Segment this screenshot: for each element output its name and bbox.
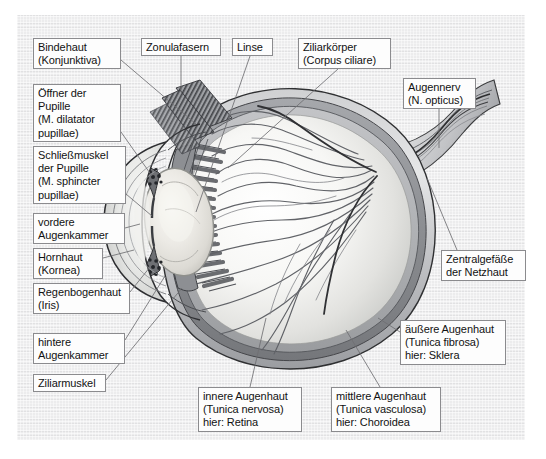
label-oeffner-pupille: Öffner derPupille(M. dilatatorpupillae) (33, 84, 121, 142)
label-line: Linse (237, 41, 268, 54)
label-line: (Tunica vasculosa) (336, 403, 436, 416)
label-line: Zonulafasern (146, 41, 216, 54)
label-hornhaut: Hornhaut(Kornea) (33, 248, 103, 279)
label-line: mittlere Augenhaut (336, 390, 436, 403)
label-line: Augenkammer (38, 229, 120, 242)
label-line: innere Augenhaut (203, 390, 297, 403)
label-line: pupillae) (38, 189, 121, 202)
label-innere-augenhaut: innere Augenhaut(Tunica nervosa)hier: Re… (198, 387, 302, 432)
label-line: hier: Retina (203, 416, 297, 429)
label-zentralgefaesse: Zentralgefäßeder Netzhaut (441, 250, 526, 281)
label-line: Augenkammer (38, 349, 120, 362)
label-linse: Linse (232, 38, 273, 56)
label-line: Ziliarkörper (303, 41, 386, 54)
label-line: äußere Augenhaut (405, 323, 501, 336)
label-schliessmuskel-pupille: Schließmuskelder Pupille(M. sphincterpup… (33, 146, 126, 204)
label-vordere-augenkammer: vordereAugenkammer (33, 213, 125, 244)
label-zonulafasern: Zonulafasern (141, 38, 221, 56)
label-line: der Pupille (38, 162, 121, 175)
label-line: der Netzhaut (446, 266, 521, 279)
label-mittlere-augenhaut: mittlere Augenhaut(Tunica vasculosa)hier… (331, 387, 441, 432)
label-ziliarmuskel: Ziliarmuskel (33, 374, 106, 392)
label-line: Bindehaut (38, 41, 116, 54)
label-line: (Kornea) (38, 264, 98, 277)
label-line: hintere (38, 336, 120, 349)
label-line: vordere (38, 216, 120, 229)
label-line: (N. opticus) (408, 94, 471, 107)
label-line: Pupille (38, 100, 116, 113)
label-regenbogenhaut: Regenbogenhaut(Iris) (33, 283, 130, 314)
label-line: hier: Choroidea (336, 416, 436, 429)
label-line: Zentralgefäße (446, 253, 521, 266)
label-line: hier: Sklera (405, 349, 501, 362)
label-line: (Corpus ciliare) (303, 54, 386, 67)
label-line: (Tunica fibrosa) (405, 336, 501, 349)
label-line: (M. dilatator (38, 113, 116, 126)
label-line: Regenbogenhaut (38, 286, 125, 299)
label-aeussere-augenhaut: äußere Augenhaut(Tunica fibrosa)hier: Sk… (400, 320, 506, 365)
label-line: Schließmuskel (38, 149, 121, 162)
label-line: (Tunica nervosa) (203, 403, 297, 416)
label-ziliarkoerper: Ziliarkörper(Corpus ciliare) (298, 38, 391, 69)
label-line: Hornhaut (38, 251, 98, 264)
label-line: (M. sphincter (38, 175, 121, 188)
label-line: (Konjunktiva) (38, 54, 116, 67)
label-augennerv: Augennerv(N. opticus) (403, 78, 476, 109)
label-line: (Iris) (38, 299, 125, 312)
label-hintere-augenkammer: hintereAugenkammer (33, 333, 125, 364)
label-line: Augennerv (408, 81, 471, 94)
label-line: pupillae) (38, 127, 116, 140)
label-bindehaut: Bindehaut(Konjunktiva) (33, 38, 121, 69)
label-line: Öffner der (38, 87, 116, 100)
label-line: Ziliarmuskel (38, 377, 101, 390)
